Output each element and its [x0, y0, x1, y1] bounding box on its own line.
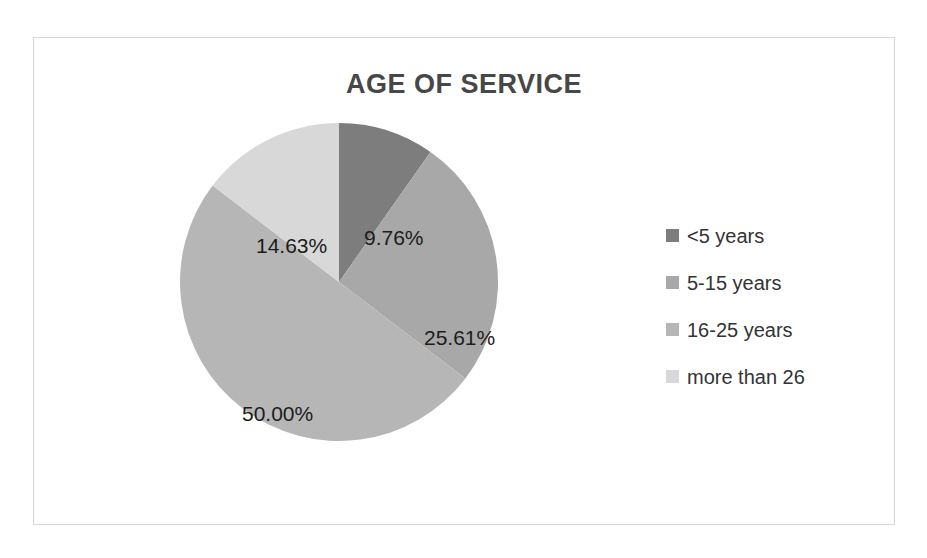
- legend-swatch-icon-2: [666, 323, 679, 336]
- legend-item-3[interactable]: more than 26: [666, 353, 881, 400]
- slice-value-label-2: 50.00%: [242, 402, 313, 426]
- chart-legend: <5 years 5-15 years 16-25 years more tha…: [666, 212, 881, 400]
- legend-item-2[interactable]: 16-25 years: [666, 306, 881, 353]
- pie-chart-plot-area: 9.76% 25.61% 50.00% 14.63% <5 years 5-15…: [34, 38, 896, 526]
- legend-swatch-icon-3: [666, 370, 679, 383]
- slice-value-label-3: 14.63%: [256, 234, 327, 258]
- legend-item-0[interactable]: <5 years: [666, 212, 881, 259]
- legend-label-0: <5 years: [687, 226, 764, 246]
- pie-chart-graphic: [179, 122, 499, 442]
- slice-value-label-0: 9.76%: [364, 226, 424, 250]
- legend-label-1: 5-15 years: [687, 273, 782, 293]
- chart-frame: AGE OF SERVICE 9.76% 25.61% 50.00% 14.63…: [33, 37, 895, 525]
- legend-label-2: 16-25 years: [687, 320, 793, 340]
- legend-label-3: more than 26: [687, 367, 805, 387]
- legend-item-1[interactable]: 5-15 years: [666, 259, 881, 306]
- legend-swatch-icon-1: [666, 276, 679, 289]
- slice-value-label-1: 25.61%: [424, 326, 495, 350]
- legend-swatch-icon-0: [666, 229, 679, 242]
